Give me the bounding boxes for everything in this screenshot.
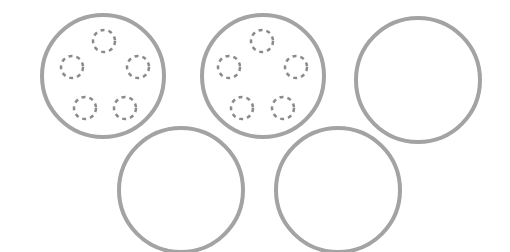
dashed-circle — [114, 97, 136, 119]
ring-outline — [276, 128, 400, 252]
ring-1 — [42, 15, 164, 137]
dashed-circle — [127, 56, 149, 78]
ring-5 — [276, 128, 400, 252]
ring-3 — [356, 18, 480, 142]
dashed-circle — [218, 56, 240, 78]
ring-2 — [202, 15, 324, 137]
ring-outline — [356, 18, 480, 142]
ring-outline — [202, 15, 324, 137]
ring-outline — [119, 128, 243, 252]
dashed-circle — [251, 30, 273, 52]
dashed-circle — [272, 97, 294, 119]
dashed-circle — [231, 97, 253, 119]
dashed-circle — [61, 56, 83, 78]
dashed-circle — [74, 97, 96, 119]
rings-diagram — [0, 0, 510, 252]
ring-4 — [119, 128, 243, 252]
dashed-circle — [285, 56, 307, 78]
dashed-circle — [93, 30, 115, 52]
